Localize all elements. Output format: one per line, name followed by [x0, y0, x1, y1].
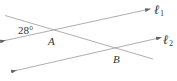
point-b-label: B [113, 53, 120, 65]
line-l2-subscript: 2 [169, 39, 173, 48]
point-a-label: A [47, 35, 55, 47]
line-l2 [16, 38, 161, 71]
parallel-lines-diagram: 28° A B ℓ 1 ℓ 2 [0, 0, 177, 81]
line-l1-subscript: 1 [160, 9, 164, 18]
transversal-line [5, 16, 153, 60]
angle-label: 28° [18, 24, 33, 36]
